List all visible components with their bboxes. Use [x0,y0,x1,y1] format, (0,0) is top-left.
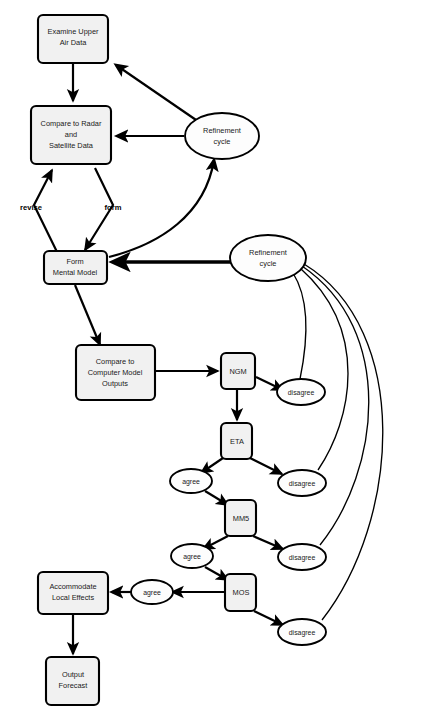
node-compare-to-computer-model-outputs-line2: Computer Model [88,368,143,377]
node-mm5-label: MM5 [233,514,249,523]
edge-form-model-to-compare-computer [75,285,100,345]
node-refinement-cycle-top-line2: cycle [214,137,231,146]
node-disagree-mos[interactable]: disagree [278,619,326,645]
node-mos-label: MOS [233,588,250,597]
node-compare-to-computer-model-outputs[interactable]: Compare to Computer Model Outputs [76,345,155,400]
node-examine-upper-air-data-line2: Air Data [60,38,88,47]
node-disagree-mm5[interactable]: disagree [278,544,326,570]
node-examine-upper-air-data-line1: Examine Upper [48,27,99,36]
node-disagree-ngm-label: disagree [288,389,315,397]
edge-disagree-ngm-to-refinement [293,273,306,379]
node-eta[interactable]: ETA [221,423,252,459]
edge-label-form: form [105,203,122,212]
node-agree-eta-label: agree [182,478,200,486]
edge-label-revise: revise [20,203,42,212]
node-disagree-eta-label: disagree [289,480,316,488]
node-mos[interactable]: MOS [225,574,256,611]
node-output-forecast[interactable]: Output Forecast [46,657,99,705]
node-disagree-mm5-label: disagree [289,554,316,562]
edge-refinement-top-to-examine [116,65,199,122]
node-form-mental-model[interactable]: Form Mental Model [44,251,107,284]
node-compare-to-radar-satellite[interactable]: Compare to Radar and Satellite Data [31,106,111,164]
node-refinement-cycle-top-line1: Refinement [203,126,241,135]
edge-mos-to-disagree [254,611,283,625]
node-examine-upper-air-data[interactable]: Examine Upper Air Data [38,15,108,63]
node-form-mental-model-line2: Mental Model [53,268,98,277]
node-accommodate-local-effects-line1: Accommodate [49,582,96,591]
edge-compare-radar-revise [34,170,60,258]
node-agree-mos[interactable]: agree [131,580,173,604]
edge-eta-to-disagree [250,458,282,474]
node-agree-mos-label: agree [143,589,161,597]
node-compare-to-radar-satellite-line1: Compare to Radar [41,119,102,128]
node-accommodate-local-effects[interactable]: Accommodate Local Effects [38,572,108,614]
node-ngm-label: NGM [229,367,246,376]
node-disagree-eta[interactable]: disagree [278,470,326,496]
node-output-forecast-line2: Forecast [59,681,88,690]
node-form-mental-model-line1: Form [66,257,83,266]
edge-form-model-to-refinement-top [109,160,214,257]
node-agree-mm5-label: agree [183,553,201,561]
edge-disagree-mm5-to-refinement [302,266,369,545]
edge-disagree-eta-to-refinement [300,268,348,470]
flowchart-svg: Examine Upper Air Data Compare to Radar … [0,0,437,720]
node-output-forecast-line1: Output [62,670,84,679]
edge-mm5-to-disagree [253,536,283,549]
node-ngm[interactable]: NGM [221,353,255,389]
node-compare-to-computer-model-outputs-line3: Outputs [102,379,128,388]
nodes-layer: Examine Upper Air Data Compare to Radar … [20,15,326,705]
node-refinement-cycle-right-line1: Refinement [249,248,287,257]
node-accommodate-local-effects-line2: Local Effects [52,593,94,602]
node-agree-eta[interactable]: agree [170,469,212,493]
node-disagree-ngm[interactable]: disagree [277,379,325,405]
node-compare-to-radar-satellite-line2: and [65,130,77,139]
node-agree-mm5[interactable]: agree [171,544,213,568]
node-refinement-cycle-top[interactable]: Refinement cycle [185,113,259,159]
node-refinement-cycle-right[interactable]: Refinement cycle [230,235,306,281]
flowchart-canvas: Examine Upper Air Data Compare to Radar … [0,0,437,720]
node-refinement-cycle-right-line2: cycle [260,259,277,268]
node-disagree-mos-label: disagree [289,629,316,637]
node-compare-to-computer-model-outputs-line1: Compare to [96,357,135,366]
node-eta-label: ETA [230,437,244,446]
node-compare-to-radar-satellite-line3: Satellite Data [49,141,94,150]
node-mm5[interactable]: MM5 [225,500,256,536]
